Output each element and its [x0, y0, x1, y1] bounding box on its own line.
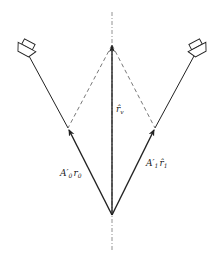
center-vector-label: r̂v	[116, 104, 124, 115]
left-vector-label: A′0r0	[59, 168, 82, 179]
left-speaker-line	[29, 56, 68, 128]
right-dashed-line	[112, 45, 155, 128]
right-vector-label: A′1r̂1	[145, 158, 168, 169]
left-dashed-line	[68, 45, 112, 128]
right-speaker-icon	[185, 37, 209, 59]
panning-diagram: r̂v A′0r0 A′1r̂1	[0, 0, 224, 256]
left-speaker-icon	[14, 37, 38, 59]
right-speaker-line	[155, 56, 194, 128]
right-vector-arrow	[112, 130, 154, 215]
